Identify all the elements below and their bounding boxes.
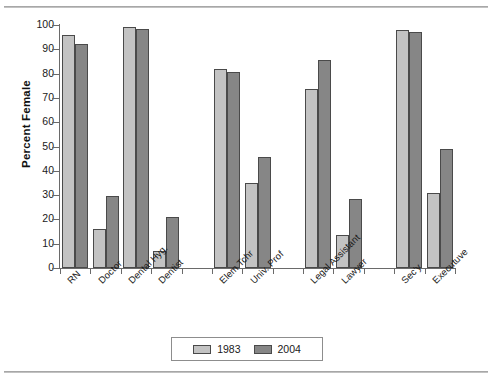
bar-rn-2004 (75, 44, 88, 268)
y-axis-tick-mark (52, 74, 59, 75)
legend-swatch-1983 (193, 345, 211, 354)
y-axis-tick-mark (52, 147, 59, 148)
chart-legend: 19832004 (171, 337, 323, 361)
y-axis-tick-label: 60 (18, 116, 54, 127)
y-axis-tick-label: 30 (18, 189, 54, 200)
bar-executuve-2004 (440, 149, 453, 268)
x-axis-tick-mark (151, 269, 152, 274)
y-axis-tick-mark (52, 25, 59, 26)
legend-label-2004: 2004 (278, 343, 301, 355)
bar-doctor-1983 (93, 229, 106, 268)
y-axis-tick-label: 70 (18, 92, 54, 103)
plot-area (60, 25, 455, 268)
legend-label-1983: 1983 (217, 343, 240, 355)
bar-legal-assistant-2004 (318, 60, 331, 268)
x-axis-label-rn: RN (65, 268, 83, 286)
y-axis-tick-label: 50 (18, 141, 54, 152)
x-axis-tick-mark (90, 269, 91, 274)
y-axis-tick-mark (52, 195, 59, 196)
bar-dental-hyg-1983 (123, 27, 136, 268)
legend-item-1983: 1983 (193, 343, 240, 355)
x-axis-tick-mark (425, 269, 426, 274)
x-axis-tick-mark (212, 269, 213, 274)
x-axis-tick-mark (60, 269, 61, 274)
x-axis-tick-labels: RNDoctorDental Hyg.DentistElem TchrUniv.… (60, 274, 480, 344)
x-axis-tick-mark (121, 269, 122, 274)
y-axis-tick-mark (52, 49, 59, 50)
bar-sec-y-2004 (409, 32, 422, 268)
x-axis-tick-mark (242, 269, 243, 274)
y-axis-tick-label: 0 (18, 262, 54, 273)
bar-elem-tchr-1983 (214, 69, 227, 268)
y-axis-tick-mark (52, 219, 59, 220)
y-axis-tick-label: 10 (18, 238, 54, 249)
x-axis-tick-mark (333, 269, 334, 274)
y-axis-tick-label: 90 (18, 43, 54, 54)
bar-rn-1983 (62, 35, 75, 268)
bar-legal-assistant-1983 (305, 89, 318, 268)
legend-swatch-2004 (254, 345, 272, 354)
x-axis-tick-mark (273, 269, 274, 274)
bar-elem-tchr-2004 (227, 72, 240, 268)
y-axis-tick-label: 40 (18, 165, 54, 176)
y-axis-tick-label: 20 (18, 213, 54, 224)
x-axis-tick-mark (303, 269, 304, 274)
y-axis-tick-mark (52, 171, 59, 172)
bar-chart-figure: Percent Female 1009080706050403020100 RN… (0, 0, 492, 381)
x-axis-tick-mark (182, 269, 183, 274)
y-axis-tick-label: 80 (18, 68, 54, 79)
bar-executuve-1983 (427, 193, 440, 268)
y-axis-tick-mark (52, 98, 59, 99)
y-axis-tick-mark (52, 122, 59, 123)
x-axis-tick-mark (364, 269, 365, 274)
x-axis-tick-mark (394, 269, 395, 274)
legend-item-2004: 2004 (254, 343, 301, 355)
bar-sec-y-1983 (396, 30, 409, 268)
y-axis-tick-label: 100 (18, 19, 54, 30)
y-axis-tick-mark (52, 268, 59, 269)
bar-dental-hyg-2004 (136, 29, 149, 268)
bar-univ-prof-2004 (258, 157, 271, 268)
bars-container (60, 25, 455, 268)
y-axis-tick-mark (52, 244, 59, 245)
x-axis-tick-mark (455, 269, 456, 274)
y-axis-tick-labels: 1009080706050403020100 (14, 25, 54, 268)
